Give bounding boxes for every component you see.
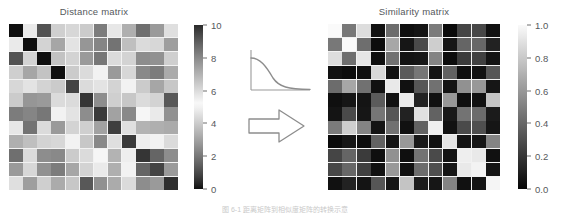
heatmap-cell [9,107,23,120]
heatmap-cell [66,177,80,190]
heatmap-cell [429,80,443,93]
heatmap-cell [9,38,23,51]
colorbar-tick: 0.4 [527,118,548,129]
heatmap-cell [371,163,385,176]
heatmap-cell [108,66,122,79]
heatmap-cell [457,135,471,148]
heatmap-cell [386,66,400,79]
heatmap-cell [342,135,356,148]
heatmap-cell [80,93,94,106]
distance-matrix-panel: Distance matrix 1086420 [0,0,240,213]
heatmap-cell [164,107,178,120]
heatmap-cell [80,80,94,93]
heatmap-cell [122,24,136,37]
heatmap-cell [472,163,486,176]
heatmap-cell [23,52,37,65]
heatmap-cell [94,93,108,106]
distance-matrix-title: Distance matrix [9,6,179,17]
heatmap-cell [94,107,108,120]
heatmap-cell [328,52,342,65]
heatmap-cell [94,52,108,65]
heatmap-cell [23,93,37,106]
heatmap-cell [342,24,356,37]
heatmap-cell [66,80,80,93]
heatmap-cell [342,177,356,190]
heatmap-cell [371,149,385,162]
heatmap-cell [94,80,108,93]
heatmap-cell [357,135,371,148]
heatmap-cell [164,149,178,162]
heatmap-cell [37,149,51,162]
heatmap-cell [94,24,108,37]
heatmap-cell [357,38,371,51]
heatmap-cell [23,163,37,176]
heatmap-cell [37,66,51,79]
heatmap-cell [457,52,471,65]
heatmap-cell [108,149,122,162]
colorbar-tick-mark [527,25,531,26]
heatmap-cell [136,38,150,51]
heatmap-cell [400,135,414,148]
heatmap-cell [486,52,500,65]
heatmap-cell [23,149,37,162]
heatmap-cell [400,93,414,106]
colorbar-tick: 0 [203,184,216,195]
heatmap-cell [80,66,94,79]
colorbar-tick-label: 1.0 [535,20,548,31]
heatmap-cell [66,135,80,148]
colorbar-tick-label: 0 [211,184,216,195]
heatmap-cell [108,80,122,93]
heatmap-cell [136,93,150,106]
heatmap-cell [150,93,164,106]
heatmap-cell [108,135,122,148]
heatmap-cell [486,38,500,51]
heatmap-cell [136,24,150,37]
heatmap-cell [51,149,65,162]
heatmap-cell [371,52,385,65]
heatmap-cell [51,38,65,51]
heatmap-cell [414,93,428,106]
heatmap-cell [443,80,457,93]
heatmap-cell [164,80,178,93]
heatmap-cell [108,177,122,190]
heatmap-cell [443,93,457,106]
heatmap-cell [94,163,108,176]
heatmap-cell [23,121,37,134]
heatmap-cell [51,66,65,79]
heatmap-cell [371,177,385,190]
heatmap-cell [429,149,443,162]
heatmap-cell [414,107,428,120]
heatmap-cell [9,24,23,37]
heatmap-cell [429,107,443,120]
heatmap-cell [80,135,94,148]
heatmap-cell [108,121,122,134]
colorbar-tick-label: 0.6 [535,85,548,96]
heatmap-cell [443,24,457,37]
colorbar-tick: 0.0 [527,184,548,195]
colorbar-tick-mark [203,57,207,58]
heatmap-cell [386,121,400,134]
heatmap-cell [122,149,136,162]
heatmap-cell [400,107,414,120]
heatmap-cell [328,38,342,51]
heatmap-cell [66,66,80,79]
heatmap-cell [94,121,108,134]
colorbar-tick-label: 10 [211,20,222,31]
heatmap-cell [150,66,164,79]
heatmap-cell [66,149,80,162]
distance-matrix-heatmap [9,24,178,190]
heatmap-cell [386,38,400,51]
colorbar-tick-mark [203,90,207,91]
heatmap-cell [457,80,471,93]
heatmap-cell [136,66,150,79]
heatmap-cell [9,135,23,148]
heatmap-cell [37,80,51,93]
heatmap-cell [429,135,443,148]
colorbar-tick-label: 4 [211,118,216,129]
heatmap-cell [472,66,486,79]
heatmap-cell [328,66,342,79]
heatmap-cell [342,52,356,65]
heatmap-cell [37,24,51,37]
heatmap-cell [486,135,500,148]
heatmap-cell [51,107,65,120]
